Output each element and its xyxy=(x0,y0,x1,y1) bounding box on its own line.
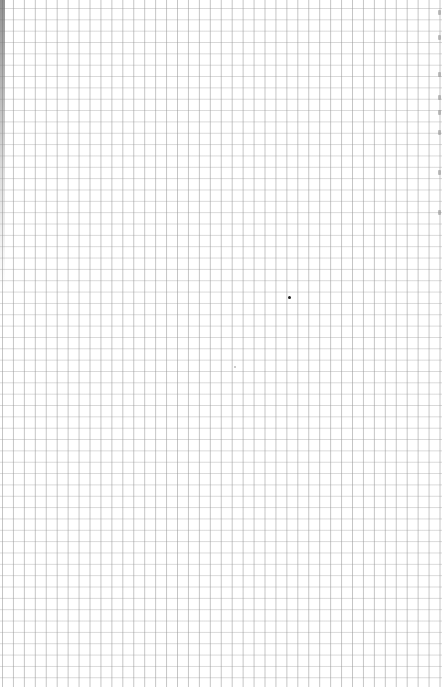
right-edge-mark xyxy=(438,130,441,135)
graph-paper-sheet xyxy=(0,0,442,687)
faint-dot-mark xyxy=(234,366,236,368)
right-edge-mark xyxy=(438,110,441,115)
right-edge-mark xyxy=(438,95,441,100)
right-edge-mark xyxy=(438,72,441,77)
right-edge-mark xyxy=(438,35,441,40)
center-dot-mark xyxy=(288,296,291,299)
right-edge-mark xyxy=(438,170,441,175)
right-edge-mark xyxy=(438,210,441,215)
left-edge-shadow xyxy=(0,0,5,290)
right-edge-mark xyxy=(438,10,441,15)
